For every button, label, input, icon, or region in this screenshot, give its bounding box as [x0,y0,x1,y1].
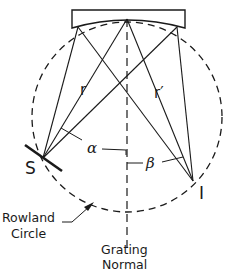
alpha-leader-right [102,149,126,155]
label-r: r [80,81,87,99]
rowland-circle-diagram: r r′ α β S I Rowland Circle Grating Norm… [0,0,230,274]
label-source: S [25,158,36,178]
label-rowland-line1: Rowland [2,210,55,225]
label-normal-line1: Grating [101,242,148,257]
label-alpha: α [87,139,97,157]
label-r-prime: r′ [154,84,164,102]
label-beta: β [145,154,155,172]
grating-block [72,10,185,28]
label-image: I [199,183,204,203]
label-rowland-line2: Circle [11,226,46,241]
label-normal-line2: Normal [102,257,147,272]
beta-leader-right [162,157,183,162]
